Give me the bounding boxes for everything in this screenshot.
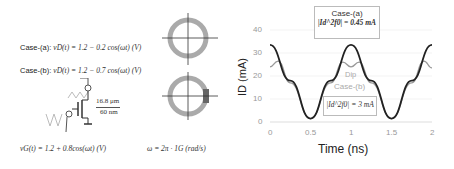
case-b-annotation: |Id^2f0| = 3 mA <box>323 96 377 116</box>
x-tick-05: 0.5 <box>305 128 316 137</box>
y-tick-20: 20 <box>253 71 262 80</box>
y-tick-0: 0 <box>258 117 262 126</box>
x-tick-2: 2 <box>430 128 434 137</box>
x-tick-15: 1.5 <box>386 128 397 137</box>
case-b-label-chart: Case-(b) <box>334 82 365 91</box>
y-axis-label: ID (mA) <box>236 58 248 96</box>
y-tick-10: 10 <box>253 94 262 103</box>
dip-annotation: Dip <box>345 70 356 79</box>
case-a-annotation: Case-(a) |Id^2f0| = 0.45 mA <box>314 6 380 39</box>
y-tick-30: 30 <box>253 48 262 57</box>
x-tick-1: 1 <box>349 128 353 137</box>
x-axis-label: Time (ns) <box>318 142 368 156</box>
x-tick-0: 0 <box>268 128 272 137</box>
drain-current-chart <box>0 0 454 169</box>
y-tick-40: 40 <box>253 25 262 34</box>
